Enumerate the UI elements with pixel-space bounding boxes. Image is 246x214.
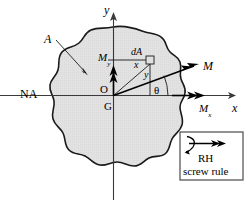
x-axis-label: x bbox=[232, 102, 237, 114]
figure-root: y x NA A My Mx M dA x y O G θ RH screw r… bbox=[0, 0, 246, 214]
element-dA-label: dA bbox=[131, 47, 142, 57]
moment-y-symbol: M bbox=[98, 51, 107, 63]
centroid-label: G bbox=[104, 101, 112, 112]
legend-curl-arrowhead bbox=[185, 150, 191, 155]
angle-theta-label: θ bbox=[154, 85, 159, 96]
cross-section-area bbox=[50, 26, 185, 166]
legend-line-2: screw rule bbox=[183, 166, 229, 177]
y-axis-label: y bbox=[104, 4, 109, 16]
element-y-label: y bbox=[144, 70, 148, 80]
area-label: A bbox=[44, 33, 51, 45]
moment-x-symbol: M bbox=[199, 102, 208, 114]
moment-x-label: Mx bbox=[199, 103, 211, 117]
moment-resultant-label: M bbox=[203, 60, 213, 72]
moment-y-label: My bbox=[98, 52, 110, 66]
moment-x-subscript: x bbox=[208, 111, 211, 119]
element-x-label: x bbox=[134, 60, 138, 70]
moment-y-subscript: y bbox=[107, 60, 110, 68]
moment-resultant-arrowhead-2 bbox=[180, 66, 192, 72]
legend-curl-arrow bbox=[186, 137, 194, 153]
neutral-axis-label: NA bbox=[20, 88, 37, 100]
legend-line-1: RH bbox=[198, 153, 213, 164]
origin-label: O bbox=[100, 84, 108, 95]
